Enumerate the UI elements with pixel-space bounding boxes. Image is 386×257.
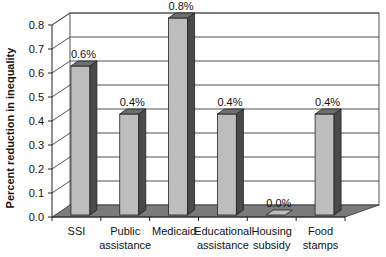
y-axis-label: Percent reduction in inequality <box>4 47 16 209</box>
y-tick-label: 0.5 <box>29 91 44 103</box>
x-tick-label: stamps <box>303 239 339 251</box>
x-tick-label: Food <box>308 225 333 237</box>
bar-side <box>334 109 341 215</box>
y-tick-label: 0.3 <box>29 139 44 151</box>
bar <box>217 109 243 215</box>
bar-side <box>236 109 243 215</box>
x-axis: SSIPublicassistanceMedicaidEducationalas… <box>52 217 345 251</box>
y-tick-label: 0.2 <box>29 163 44 175</box>
bar <box>71 61 97 215</box>
bar <box>120 109 146 215</box>
bar <box>169 13 195 215</box>
x-tick-label: Educational <box>194 225 252 237</box>
bar <box>315 109 341 215</box>
gridline-diagonal <box>52 61 70 73</box>
gridline-diagonal <box>52 181 70 193</box>
data-label: 0.4% <box>315 96 340 108</box>
gridline-diagonal <box>52 133 70 145</box>
bar-front <box>120 114 139 215</box>
data-label: 0.4% <box>217 96 242 108</box>
y-tick-label: 0.4 <box>29 115 44 127</box>
y-axis: 0.00.10.20.30.40.50.60.70.8 <box>29 19 52 223</box>
bar-front <box>71 66 90 215</box>
x-tick-label: subsidy <box>253 239 291 251</box>
x-tick-label: SSI <box>68 225 86 237</box>
x-tick-label: Public <box>110 225 140 237</box>
bar-chart: 0.00.10.20.30.40.50.60.70.8 0.6%0.4%0.8%… <box>0 0 386 257</box>
data-label: 0.8% <box>169 0 194 12</box>
gridline-diagonal <box>52 157 70 169</box>
gridline-diagonal <box>52 37 70 49</box>
data-label: 0.0% <box>266 197 291 209</box>
bar-front <box>217 114 236 215</box>
bar-side <box>188 13 195 215</box>
y-tick-label: 0.7 <box>29 43 44 55</box>
gridline-diagonal <box>52 109 70 121</box>
bar-side <box>139 109 146 215</box>
y-tick-label: 0.8 <box>29 19 44 31</box>
y-tick-label: 0.0 <box>29 211 44 223</box>
x-tick-label: Medicaid <box>152 225 196 237</box>
x-tick-label: Housing <box>252 225 292 237</box>
bar-front <box>169 18 188 215</box>
y-tick-label: 0.1 <box>29 187 44 199</box>
y-tick-label: 0.6 <box>29 67 44 79</box>
bar-front <box>315 114 334 215</box>
x-tick-label: assistance <box>99 239 151 251</box>
data-label: 0.4% <box>120 96 145 108</box>
data-label: 0.6% <box>71 48 96 60</box>
bar-side <box>90 61 97 215</box>
gridline-diagonal <box>52 13 70 25</box>
gridline-diagonal <box>52 85 70 97</box>
x-tick-label: assistance <box>197 239 249 251</box>
